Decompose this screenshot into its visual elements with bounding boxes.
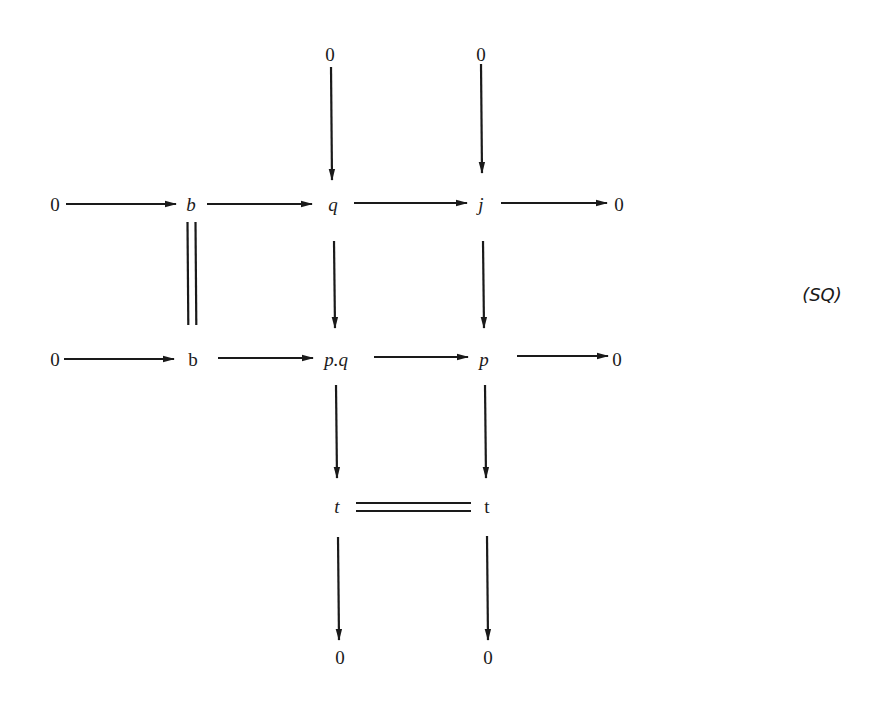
node-zero-bottom-right: 0 <box>483 647 493 668</box>
node-p-dot-q: p.q <box>322 349 348 370</box>
equation-tag: (SQ) <box>802 284 842 305</box>
node-j: j <box>475 194 483 215</box>
node-t-left: t <box>334 496 340 517</box>
arrow-q-to-pq <box>334 241 335 328</box>
node-zero-top-j: 0 <box>476 44 486 65</box>
arrow-p-to-t-right <box>485 385 486 478</box>
arrow-j-to-p <box>483 241 484 328</box>
arrow-zero-top-q-to-q <box>331 67 332 180</box>
node-zero-row2-right: 0 <box>612 349 622 370</box>
node-q: q <box>328 194 338 215</box>
node-b-row1: b <box>186 194 196 215</box>
node-zero-bottom-left: 0 <box>335 647 345 668</box>
arrow-t-left-to-zero-bottom-left <box>338 537 339 640</box>
arrow-t-right-to-zero-bottom-right <box>487 536 488 640</box>
commutative-diagram: 0 0 0 b q j 0 0 b p.q p 0 t t 0 0 (SQ) <box>0 0 888 702</box>
node-p: p <box>477 349 489 370</box>
arrow-zero-top-j-to-j <box>481 64 482 173</box>
equality-line-b-r1-b-r2 <box>196 222 197 325</box>
arrow-pq-to-t-left <box>336 385 337 478</box>
equality-line-b-r1-b-r2 <box>188 222 189 325</box>
node-zero-top-q: 0 <box>325 44 335 65</box>
node-t-right: t <box>484 496 490 517</box>
node-zero-row1-right: 0 <box>614 194 624 215</box>
node-zero-row2-left: 0 <box>50 349 60 370</box>
node-b-row2: b <box>188 349 198 370</box>
node-zero-row1-left: 0 <box>50 194 60 215</box>
